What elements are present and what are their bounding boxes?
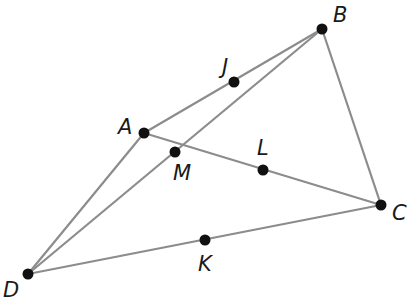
diagram-canvas: A B C D J M L K xyxy=(0,0,413,305)
segment-DA xyxy=(28,133,144,274)
label-M: M xyxy=(173,161,191,185)
label-A: A xyxy=(116,115,132,139)
label-L: L xyxy=(257,136,269,160)
label-B: B xyxy=(333,3,347,27)
point-A xyxy=(139,128,150,139)
segment-BC xyxy=(322,29,381,205)
point-C xyxy=(376,200,387,211)
point-L xyxy=(258,165,269,176)
point-J xyxy=(229,77,240,88)
label-D: D xyxy=(3,278,19,302)
point-B xyxy=(317,24,328,35)
label-K: K xyxy=(198,252,214,276)
label-J: J xyxy=(218,55,228,79)
point-K xyxy=(200,235,211,246)
label-C: C xyxy=(392,201,407,225)
point-M xyxy=(170,147,181,158)
point-D xyxy=(23,269,34,280)
geometry-diagram: A B C D J M L K xyxy=(0,0,413,305)
